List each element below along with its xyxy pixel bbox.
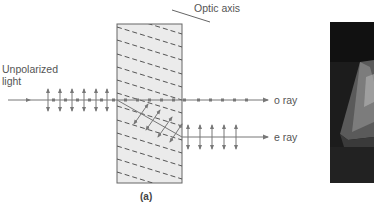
crystal-photo <box>330 22 374 183</box>
o-ray-label: o ray <box>274 95 297 106</box>
incident-label-line1: Unpolarized <box>2 63 58 75</box>
calcite-crystal <box>117 14 182 192</box>
incident-light-label: Unpolarized light <box>2 63 58 87</box>
panel-label: (a) <box>140 191 152 202</box>
incident-label-line2: light <box>2 75 58 87</box>
incident-ray <box>8 89 117 111</box>
e-ray-label: e ray <box>274 132 297 143</box>
optic-axis-label: Optic axis <box>194 3 240 14</box>
birefringence-diagram <box>0 0 374 208</box>
calcite-crystal-photo-image <box>330 22 374 183</box>
